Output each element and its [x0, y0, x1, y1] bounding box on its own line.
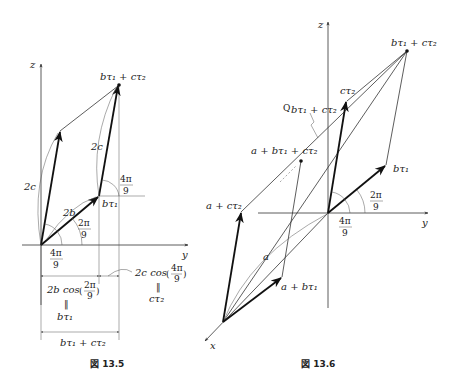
dim2-frac-den: 9 — [174, 274, 180, 284]
z-axis-label: z — [317, 19, 324, 30]
angle-4pi9-den: 9 — [53, 260, 59, 270]
q-leader — [310, 113, 318, 138]
label-a: a — [263, 251, 269, 262]
paren-open: ( — [166, 269, 170, 279]
figure-caption: 図 13.5 — [90, 359, 124, 369]
label-ctau2: cτ₂ — [340, 85, 355, 96]
angle-arc-4pi9-top — [102, 180, 119, 196]
ab-to-abc-line — [282, 161, 301, 277]
abc-point — [299, 159, 303, 163]
label-2b: 2b — [62, 207, 76, 218]
label-2c-left: 2c — [23, 181, 36, 192]
angle-arc-2pi9 — [357, 190, 365, 213]
angle-4pi9-den: 9 — [342, 228, 348, 238]
y-axis-label: y — [421, 217, 428, 228]
paren-close: ) — [96, 286, 100, 296]
dim2-expr: 2c cos — [134, 267, 167, 278]
label-a-b-c: a + bτ₁ + cτ₂ — [251, 145, 318, 156]
dim1-frac-den: 9 — [87, 291, 93, 301]
dim1-eq: ‖ — [64, 299, 69, 310]
vector-a-btau1 — [223, 278, 281, 322]
figure-13-5: z y bτ₁ + cτ₂ bτ₁ 2b 2c 2c 2π 9 4π 9 — [22, 59, 188, 369]
ctau2-to-sum-line — [347, 51, 407, 101]
angle-4pi9-num: 4π — [50, 248, 62, 258]
parallelogram-top-edge — [60, 86, 118, 131]
label-q: Q — [283, 103, 290, 113]
angle-2pi9-num: 2π — [370, 190, 382, 200]
dim1-expr: 2b cos — [46, 284, 80, 295]
dashed-segment — [280, 166, 296, 182]
label-sum: bτ₁ + cτ₂ — [391, 37, 437, 48]
angle-4pi9-num: 4π — [339, 216, 351, 226]
dim-total-label: bτ₁ + cτ₂ — [60, 337, 106, 348]
label-a-b: a + bτ₁ — [281, 281, 318, 292]
figure-canvas: z y bτ₁ + cτ₂ bτ₁ 2b 2c 2c 2π 9 4π 9 — [0, 0, 450, 392]
angle-2pi9-den: 9 — [373, 202, 379, 212]
dim2-result: cτ₂ — [149, 293, 164, 304]
sum-point — [117, 83, 121, 87]
figure-13-6: z y x bτ₁ + cτ₂ cτ₂ bτ₁ Q bτ₁ + cτ₂ a + … — [205, 19, 437, 369]
y-axis-label: y — [181, 249, 188, 260]
angle-4pi9-top-num: 4π — [120, 174, 132, 184]
z-axis-label: z — [29, 59, 36, 70]
angle-2pi9-num: 2π — [78, 218, 90, 228]
label-btau1: bτ₁ — [102, 198, 118, 209]
label-btau1: bτ₁ — [393, 163, 409, 174]
vector-a-ctau2 — [223, 213, 241, 322]
leader-2c-cos — [108, 269, 132, 276]
angle-4pi9-top-den: 9 — [123, 186, 129, 196]
q-plane-line — [241, 51, 407, 212]
paren-open: ( — [79, 286, 83, 296]
dim2-frac-num: 4π — [171, 263, 183, 273]
label-q-sub: bτ₁ + cτ₂ — [291, 104, 337, 115]
dim1-frac-num: 2π — [84, 280, 96, 290]
x-axis-label: x — [210, 340, 216, 351]
dim1-result: bτ₁ — [57, 311, 73, 322]
sum-point — [405, 49, 409, 53]
vector-2c-tau2 — [41, 132, 60, 245]
angle-2pi9-den: 9 — [81, 230, 87, 240]
label-a-c: a + cτ₂ — [206, 200, 242, 211]
paren-close: ) — [183, 269, 187, 279]
label-sum: bτ₁ + cτ₂ — [100, 71, 146, 82]
dim2-eq: ‖ — [156, 282, 161, 293]
label-2c-right: 2c — [90, 141, 103, 152]
figure-caption: 図 13.6 — [301, 359, 335, 369]
